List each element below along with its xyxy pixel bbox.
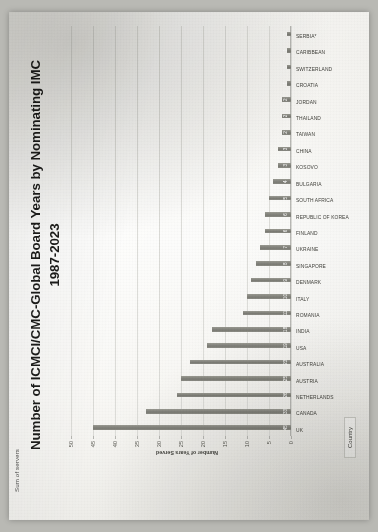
chart-title-line-1: Number of ICMCI/CMC-Global Board Years b… (27, 12, 46, 498)
y-axis-tick-mark (269, 436, 270, 439)
bar-value-label: 2 (284, 98, 289, 101)
x-axis-category-label: SWITZERLAND (296, 67, 332, 72)
bar-slot: 10ITALY (71, 288, 291, 304)
bar[interactable]: 1 (287, 32, 291, 37)
bar-slot: 1SWITZERLAND (71, 59, 291, 75)
x-axis-category-label: CARIBBEAN (296, 50, 325, 55)
y-axis-tick-mark (115, 436, 116, 439)
y-axis-tick-mark (291, 436, 292, 439)
bar[interactable]: 7 (260, 245, 291, 250)
bar-slot: 5SOUTH AFRICA (71, 190, 291, 206)
bar-value-label: 4 (284, 180, 289, 183)
x-axis-category-label: KOSOVO (296, 165, 318, 170)
bar[interactable]: 6 (265, 212, 291, 217)
bar[interactable]: 18 (212, 327, 291, 332)
y-axis-tick-label: 40 (112, 441, 118, 447)
bar-value-label: 1 (284, 33, 289, 36)
bar-slot: 1CROATIA (71, 75, 291, 91)
bar[interactable]: 45 (93, 426, 291, 431)
bar-value-label: 3 (284, 148, 289, 151)
bar[interactable]: 10 (247, 294, 291, 299)
bar[interactable]: 1 (287, 81, 291, 86)
bar[interactable]: 2 (282, 97, 291, 102)
bar-slot: 26NETHERLANDS (71, 387, 291, 403)
bar-slot: 9DENMARK (71, 272, 291, 288)
x-axis-category-label: CANADA (296, 411, 317, 416)
y-axis-tick-mark (93, 436, 94, 439)
bar-slot: 33CANADA (71, 403, 291, 419)
bar-value-label: 23 (284, 360, 289, 365)
bar[interactable]: 33 (146, 409, 291, 414)
bar[interactable]: 19 (207, 343, 291, 348)
bar[interactable]: 25 (181, 376, 291, 381)
bar[interactable]: 11 (243, 311, 291, 316)
bar-slot: 3KOSOVO (71, 157, 291, 173)
bar-slot: 1CARIBBEAN (71, 42, 291, 58)
legend-country: Country (344, 417, 356, 458)
y-axis-tick-mark (137, 436, 138, 439)
bar[interactable]: 4 (273, 179, 291, 184)
bar-value-label: 33 (284, 409, 289, 414)
bar-value-label: 11 (284, 311, 289, 316)
bar-slot: 3CHINA (71, 141, 291, 157)
y-axis-tick-label: 30 (156, 441, 162, 447)
bar[interactable]: 9 (251, 278, 291, 283)
chart-title-line-2: 1987-2023 (46, 12, 65, 498)
y-axis-tick-label: 20 (200, 441, 206, 447)
bar-slot: 25AUSTRIA (71, 370, 291, 386)
bar-value-label: 6 (284, 213, 289, 216)
bar-value-label: 25 (284, 376, 289, 381)
bar-slot: 6FINLAND (71, 223, 291, 239)
bar-slot: 6REPUBLIC OF KOREA (71, 206, 291, 222)
y-axis-tick-mark (181, 436, 182, 439)
bar-value-label: 9 (284, 279, 289, 282)
bar[interactable]: 23 (190, 360, 291, 365)
y-axis-tick-label: 45 (90, 441, 96, 447)
bar-value-label: 8 (284, 262, 289, 265)
plot-area: 05101520253035404550 45UK33CANADA26NETHE… (71, 26, 291, 436)
x-axis-category-label: TAIWAN (296, 132, 315, 137)
bar[interactable]: 1 (287, 48, 291, 53)
bar-slot: 2JORDAN (71, 91, 291, 107)
bar-value-label: 7 (284, 246, 289, 249)
x-axis-category-label: DENMARK (296, 280, 321, 285)
y-axis-tick-mark (159, 436, 160, 439)
bar-value-label: 18 (284, 327, 289, 332)
x-axis-category-label: CROATIA (296, 83, 318, 88)
bar[interactable]: 2 (282, 130, 291, 135)
bar-value-label: 2 (284, 115, 289, 118)
y-axis-tick-label: 35 (134, 441, 140, 447)
bar[interactable]: 6 (265, 229, 291, 234)
bar[interactable]: 3 (278, 163, 291, 168)
x-axis-category-label: UK (296, 428, 303, 433)
bar-slot: 45UK (71, 420, 291, 436)
bar-value-label: 2 (284, 131, 289, 134)
gridline (291, 26, 292, 436)
x-axis-category-label: SERBIA* (296, 34, 317, 39)
bar[interactable]: 5 (269, 196, 291, 201)
bar-value-label: 6 (284, 230, 289, 233)
x-axis-category-label: ITALY (296, 297, 309, 302)
x-axis-category-label: THAILAND (296, 116, 321, 121)
y-axis-tick-label: 15 (222, 441, 228, 447)
y-axis-title: Number of Years Served (156, 450, 218, 456)
bar-value-label: 5 (284, 197, 289, 200)
x-axis-category-label: REPUBLIC OF KOREA (296, 215, 349, 220)
bar[interactable]: 2 (282, 114, 291, 119)
bar[interactable]: 1 (287, 65, 291, 70)
scanned-chart-sheet: Sum of servers Number of ICMCI/CMC-Globa… (9, 12, 369, 520)
y-axis-tick-mark (225, 436, 226, 439)
bar[interactable]: 8 (256, 261, 291, 266)
bar[interactable]: 3 (278, 147, 291, 152)
bar-slot: 18INDIA (71, 321, 291, 337)
x-axis-category-label: NETHERLANDS (296, 395, 334, 400)
bar-slot: 4BULGARIA (71, 174, 291, 190)
x-axis-category-label: BULGARIA (296, 182, 322, 187)
bar-slot: 1SERBIA* (71, 26, 291, 42)
x-axis-category-label: JORDAN (296, 100, 317, 105)
x-axis-category-label: CHINA (296, 149, 312, 154)
chart-canvas: Sum of servers Number of ICMCI/CMC-Globa… (9, 12, 365, 498)
y-axis-tick-mark (71, 436, 72, 439)
bar[interactable]: 26 (177, 393, 291, 398)
bar-value-label: 3 (284, 164, 289, 167)
